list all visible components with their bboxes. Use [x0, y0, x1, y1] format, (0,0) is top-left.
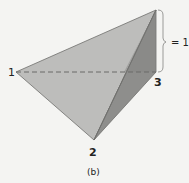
figure-caption: (b): [87, 167, 100, 177]
brace-label: = 1: [171, 37, 189, 48]
height-brace: [158, 10, 166, 72]
vertex-label-3: 3: [154, 76, 162, 89]
tetrahedron-diagram: = 1 1 3 2 (b): [0, 0, 189, 183]
vertex-label-1: 1: [8, 66, 15, 79]
vertex-label-2: 2: [89, 146, 97, 159]
